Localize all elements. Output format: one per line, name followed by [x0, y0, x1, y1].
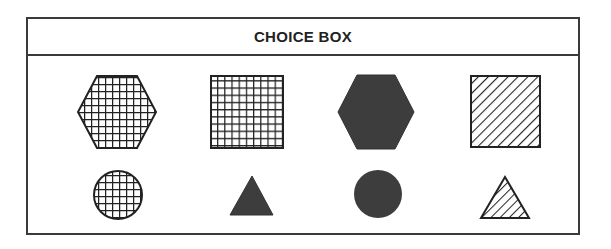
shape-hexagon-grid[interactable]: [78, 76, 156, 148]
shape-square-hatched[interactable]: [471, 76, 540, 147]
shape-circle-solid[interactable]: [354, 170, 402, 218]
shape-circle-grid[interactable]: [94, 171, 142, 219]
shape-triangle-hatched[interactable]: [481, 177, 529, 218]
shape-triangle-solid[interactable]: [230, 176, 273, 215]
shapes-canvas: [0, 0, 611, 249]
shape-hexagon-solid[interactable]: [338, 75, 414, 149]
shape-square-grid[interactable]: [211, 76, 283, 148]
